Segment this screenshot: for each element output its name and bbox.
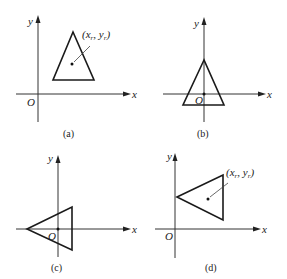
- x-axis-label: x: [131, 88, 137, 100]
- origin-label: O: [165, 230, 173, 242]
- x-axis-arrow-icon: [253, 227, 261, 232]
- x-axis-arrow-icon: [258, 92, 266, 97]
- reference-point: [207, 198, 210, 201]
- panel-caption: (b): [197, 128, 209, 140]
- x-axis-arrow-icon: [123, 227, 131, 232]
- panel-c: y x O (c): [16, 152, 137, 274]
- y-axis-arrow-icon: [36, 15, 41, 23]
- panel-caption: (a): [63, 128, 74, 140]
- y-axis-label: y: [193, 17, 199, 29]
- reference-point: [57, 228, 60, 231]
- y-axis-arrow-icon: [56, 155, 61, 163]
- y-axis-arrow-icon: [173, 153, 178, 161]
- origin-label: O: [27, 96, 35, 108]
- x-axis-label: x: [266, 88, 272, 100]
- panel-a: y x O (xr, yr) (a): [16, 15, 137, 140]
- reference-point-label: (xr, yr): [226, 166, 254, 180]
- x-axis-label: x: [131, 223, 137, 235]
- origin-label: O: [48, 230, 56, 242]
- x-axis-arrow-icon: [123, 92, 131, 97]
- panel-b: y x O (b): [163, 17, 272, 140]
- x-axis-label: x: [261, 223, 267, 235]
- panel-caption: (c): [51, 262, 62, 274]
- reference-point: [71, 63, 74, 66]
- reference-leader-line: [210, 183, 228, 197]
- y-axis-label: y: [47, 152, 53, 164]
- origin-label: O: [195, 94, 203, 106]
- reference-point-label: (xr, yr): [82, 28, 110, 42]
- panel-d: y x O (xr, yr) (d): [155, 150, 267, 274]
- rotation-about-reference-point-figure: y x O (xr, yr) (a) y x O (b): [0, 0, 287, 279]
- triangle: [177, 175, 223, 220]
- reference-leader-line: [74, 46, 90, 62]
- panel-caption: (d): [205, 262, 217, 274]
- y-axis-label: y: [166, 150, 172, 162]
- y-axis-arrow-icon: [202, 17, 207, 25]
- y-axis-label: y: [27, 15, 33, 27]
